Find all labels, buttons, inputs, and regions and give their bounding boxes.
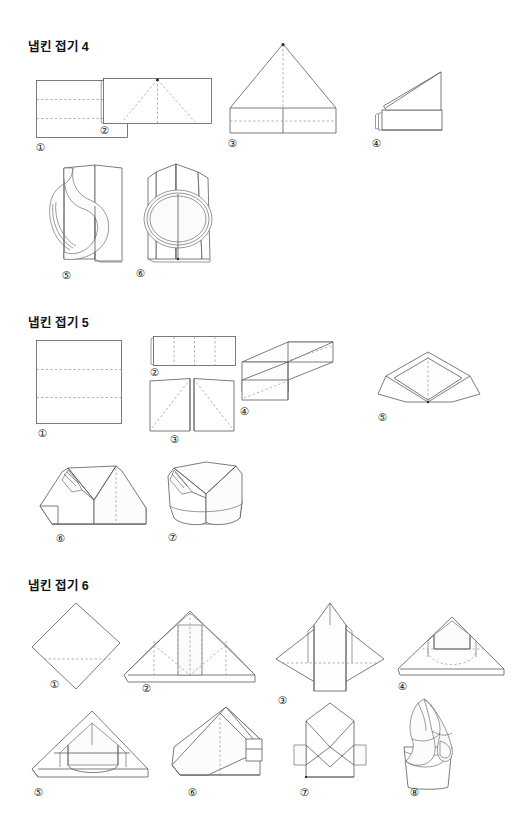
instruction-sheet-page: 냅킨 접기 4 ① ②	[0, 0, 527, 831]
figure-s5-step-2	[150, 336, 236, 366]
section-title-napkin-fold-4: 냅킨 접기 4	[28, 36, 89, 55]
figure-s6-step-7	[288, 701, 372, 785]
section-title-napkin-fold-5: 냅킨 접기 5	[28, 312, 89, 331]
figure-s6-step-4	[396, 615, 508, 679]
figure-s4-step-4	[372, 68, 452, 134]
step-number-s6-4: ④	[398, 681, 407, 692]
step-number-s4-3: ③	[228, 138, 237, 149]
figure-s5-step-6	[38, 462, 150, 530]
step-number-s6-7: ⑦	[300, 787, 309, 798]
figure-s5-step-4	[240, 340, 336, 402]
step-number-s5-7: ⑦	[168, 532, 177, 543]
figure-s6-step-1	[30, 601, 122, 691]
figure-s5-step-7	[162, 460, 246, 530]
step-number-s5-4: ④	[240, 406, 249, 417]
step-number-s5-3: ③	[170, 434, 179, 445]
step-number-s4-1: ①	[36, 142, 45, 153]
figure-s5-step-3	[148, 378, 236, 432]
step-number-s6-1: ①	[50, 679, 59, 690]
step-number-s6-2: ②	[142, 683, 151, 694]
figure-s4-step-2	[100, 78, 212, 124]
section-title-napkin-fold-6: 냅킨 접기 6	[28, 575, 89, 594]
step-number-s4-5: ⑤	[62, 270, 71, 281]
step-number-s5-5: ⑤	[378, 412, 387, 423]
section-napkin-fold-4: 냅킨 접기 4 ① ②	[0, 0, 527, 290]
figure-s4-step-6	[132, 160, 224, 266]
section-napkin-fold-6: 냅킨 접기 6 ①	[0, 555, 527, 831]
figure-s6-step-2	[122, 609, 258, 685]
figure-s5-step-5	[376, 350, 486, 412]
figure-s6-step-8	[382, 695, 470, 791]
figure-s6-step-6	[164, 703, 274, 785]
step-number-s6-8: ⑧	[410, 787, 419, 798]
step-number-s4-6: ⑥	[136, 268, 145, 279]
figure-s4-step-3	[228, 42, 338, 134]
step-number-s6-5: ⑤	[34, 787, 43, 798]
step-number-s5-2: ②	[150, 367, 159, 378]
section-napkin-fold-5: 냅킨 접기 5 ① ②	[0, 290, 527, 555]
step-number-s5-1: ①	[38, 428, 47, 439]
figure-s5-step-1	[36, 340, 122, 424]
figure-s6-step-5	[30, 707, 154, 785]
step-number-s4-2: ②	[100, 125, 109, 136]
step-number-s6-6: ⑥	[188, 787, 197, 798]
step-number-s4-4: ④	[372, 138, 381, 149]
figure-s4-step-5	[38, 162, 126, 266]
figure-s6-step-3	[272, 601, 388, 693]
step-number-s5-6: ⑥	[56, 533, 65, 544]
step-number-s6-3: ③	[278, 695, 287, 706]
